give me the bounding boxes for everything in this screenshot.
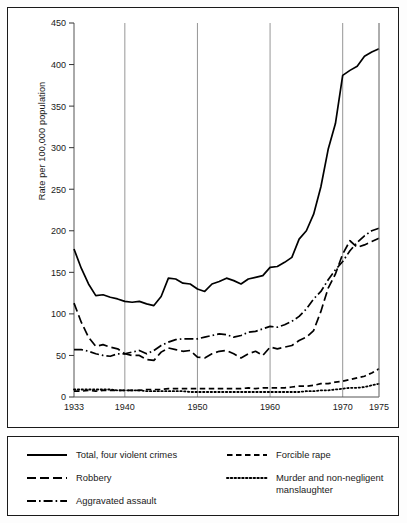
legend-label-1: Robbery (76, 472, 111, 484)
legend-line-sample-long-dash-icon (26, 472, 68, 484)
x-tick-label-1960: 1960 (260, 402, 280, 412)
legend-item-4[interactable]: Murder and non-negligentmanslaughter (226, 472, 401, 495)
chart-frame: Rate per 100,000 population 050100150200… (7, 7, 399, 428)
x-tick-label-1975: 1975 (369, 402, 389, 412)
y-tick-label-250: 250 (51, 185, 66, 195)
legend-column-right: Forcible rapeMurder and non-negligentman… (226, 449, 401, 504)
legend-line-sample-dash-icon (226, 449, 268, 461)
legend-column-left: Total, four violent crimesRobberyAggrava… (26, 449, 236, 518)
y-tick-label-200: 200 (51, 226, 66, 236)
y-tick-label-350: 350 (51, 102, 66, 112)
legend-item-1[interactable]: Robbery (26, 472, 236, 486)
x-tick-label-1970: 1970 (333, 402, 353, 412)
legend-label-4: Murder and non-negligentmanslaughter (276, 472, 383, 495)
legend-item-2[interactable]: Aggravated assault (26, 495, 236, 509)
legend-label-0: Total, four violent crimes (76, 449, 177, 461)
y-tick-label-400: 400 (51, 60, 66, 70)
y-axis-label: Rate per 100,000 population (37, 51, 47, 231)
legend-item-0[interactable]: Total, four violent crimes (26, 449, 236, 463)
legend-label-2: Aggravated assault (76, 495, 156, 507)
y-tick-label-450: 450 (51, 18, 66, 28)
series-line-4 (74, 384, 379, 392)
legend-line-sample-dash-dot-icon (26, 495, 68, 507)
y-tick-label-50: 50 (56, 351, 66, 361)
legend-line-sample-solid-icon (26, 449, 68, 461)
series-line-3 (74, 369, 379, 391)
y-tick-label-300: 300 (51, 143, 66, 153)
y-tick-label-0: 0 (61, 392, 66, 402)
series-line-0 (74, 49, 379, 306)
legend-label-3: Forcible rape (276, 449, 331, 461)
figure-canvas: Rate per 100,000 population 050100150200… (0, 0, 407, 523)
x-tick-label-1933: 1933 (64, 402, 84, 412)
x-tick-label-1950: 1950 (187, 402, 207, 412)
line-chart-plot: 0501001502002503003504004501933194019501… (8, 8, 396, 425)
x-tick-label-1940: 1940 (115, 402, 135, 412)
y-tick-label-100: 100 (51, 309, 66, 319)
y-tick-label-150: 150 (51, 268, 66, 278)
legend-line-sample-dotted-icon (226, 472, 268, 484)
legend-item-3[interactable]: Forcible rape (226, 449, 401, 463)
legend-frame: Total, four violent crimesRobberyAggrava… (7, 436, 399, 516)
series-line-2 (74, 228, 379, 356)
